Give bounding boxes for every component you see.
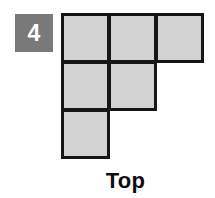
shape-cell [61, 109, 110, 159]
figure-caption: Top [0, 168, 215, 194]
index-badge-label: 4 [28, 22, 41, 45]
shape-cell [61, 13, 110, 63]
shape-cell [108, 13, 157, 63]
index-badge: 4 [15, 14, 53, 52]
shape-cell [108, 61, 157, 111]
shape-cell [61, 61, 110, 111]
shape-cell [155, 13, 204, 63]
polyomino-shape [61, 13, 203, 159]
block-figure: 4 Top [0, 0, 215, 198]
